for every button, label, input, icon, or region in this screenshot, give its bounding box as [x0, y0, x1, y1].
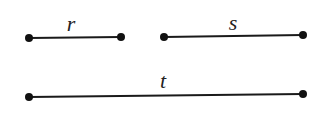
segment-t: t: [25, 68, 307, 101]
segment-s-end-point: [299, 31, 307, 39]
segment-r-end-point: [117, 33, 125, 41]
segment-r-label: r: [67, 11, 76, 36]
segment-s-line: [164, 35, 303, 37]
segment-t-line: [29, 94, 303, 97]
segment-diagram: r s t: [0, 0, 326, 116]
segment-r-start-point: [25, 34, 33, 42]
segment-r-line: [29, 37, 121, 38]
segment-s-label: s: [229, 10, 238, 35]
diagram-svg: r s t: [0, 0, 326, 116]
segment-r: r: [25, 11, 125, 42]
segment-s: s: [160, 10, 307, 41]
segment-s-start-point: [160, 33, 168, 41]
segment-t-end-point: [299, 90, 307, 98]
segment-t-label: t: [160, 68, 167, 93]
segment-t-start-point: [25, 93, 33, 101]
